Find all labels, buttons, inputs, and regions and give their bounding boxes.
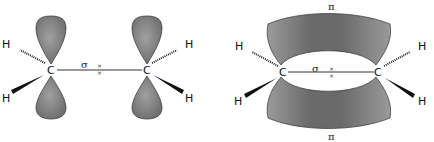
- pi-bond-upper-lobe: [267, 14, 391, 66]
- p-orbital-lower-lobe-right: [132, 76, 162, 119]
- electron-mark: ×: [97, 69, 102, 76]
- pi-label-bottom: π: [328, 131, 335, 142]
- wedge-bond-lower-right: [385, 78, 415, 98]
- pi-label-top: π: [328, 1, 335, 12]
- p-orbital-lower-lobe-left: [36, 76, 66, 119]
- left-panel-sigma-bond: σ × × C H H C H H: [2, 16, 193, 119]
- carbon-atom-left: C: [47, 64, 55, 77]
- ethylene-bonding-diagram: σ × × C H H C H H π π σ × × C H H C: [0, 0, 434, 142]
- electron-mark: ×: [329, 65, 334, 72]
- right-panel-pi-bond: π π σ × × C H H C H H: [234, 1, 426, 142]
- hydrogen-atom: H: [234, 95, 242, 108]
- electron-mark: ×: [97, 62, 102, 69]
- hashed-bond-upper-right: [152, 50, 177, 63]
- sigma-label: σ: [312, 63, 319, 74]
- hashed-bond-upper-left: [20, 50, 45, 63]
- pi-bond-lower-lobe: [267, 77, 391, 129]
- wedge-bond-lower-right: [153, 75, 184, 94]
- hashed-bond-upper-right: [384, 52, 410, 66]
- hydrogen-atom: H: [418, 40, 426, 53]
- hydrogen-atom: H: [185, 92, 193, 105]
- sigma-label: σ: [81, 59, 88, 70]
- hydrogen-atom: H: [418, 95, 426, 108]
- electron-mark: ×: [329, 72, 334, 79]
- p-orbital-upper-lobe-right: [132, 16, 162, 64]
- hydrogen-atom: H: [185, 38, 193, 51]
- hydrogen-atom: H: [235, 40, 243, 53]
- wedge-bond-lower-left: [11, 75, 44, 94]
- hydrogen-atom: H: [2, 38, 10, 51]
- carbon-atom-right: C: [143, 64, 151, 77]
- hydrogen-atom: H: [2, 92, 10, 105]
- carbon-atom-left: C: [279, 66, 287, 79]
- p-orbital-upper-lobe-left: [36, 16, 66, 64]
- carbon-atom-right: C: [374, 66, 382, 79]
